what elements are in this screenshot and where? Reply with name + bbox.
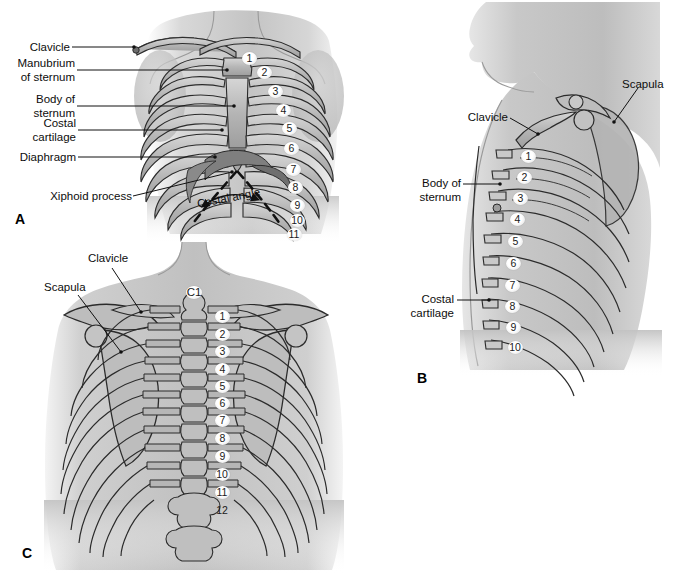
panel-c-vertebra-number-6: 6	[215, 397, 229, 410]
panel-c-vertebra-number-1: 1	[215, 310, 229, 323]
panel-c-vertebra-number-3: 3	[215, 345, 229, 358]
panel-a-rib-number-11: 11	[285, 228, 303, 241]
panel-c-vertebra-number-9: 9	[215, 450, 229, 463]
panel-a-rib-number-10: 10	[288, 214, 306, 227]
label-b-clavicle: Clavicle	[438, 111, 508, 125]
label-a-xiphoid-process: Xiphoid process	[40, 190, 132, 204]
label-a-clavicle: Clavicle	[0, 41, 70, 55]
panel-a-rib-number-6: 6	[284, 142, 298, 155]
panel-c-vertebra-number-5: 5	[215, 380, 229, 393]
panel-c-vertebra-number-12: 12	[213, 504, 231, 517]
panel-b-rib-number-9: 9	[506, 321, 520, 334]
panel-a-rib-number-4: 4	[276, 104, 290, 117]
panel-letter-c: C	[22, 545, 32, 561]
panel-letter-a: A	[15, 211, 25, 227]
label-b-costal-cartilage: Costal cartilage	[378, 293, 454, 320]
panel-c-vertebra-number-2: 2	[215, 328, 229, 341]
panel-c-vertebra-number-10: 10	[213, 468, 231, 481]
panel-b-rib-number-10: 10	[506, 341, 524, 354]
label-c-c1-vertebra: C1	[184, 286, 204, 299]
panel-a-rib-number-2: 2	[257, 66, 271, 79]
panel-c-vertebra-number-7: 7	[215, 414, 229, 427]
panel-b-rib-number-1: 1	[521, 150, 535, 163]
panel-b-rib-number-3: 3	[513, 192, 527, 205]
panel-b-rib-number-7: 7	[505, 279, 519, 292]
panel-b-rib-number-4: 4	[510, 213, 524, 226]
panel-b-rib-number-6: 6	[506, 257, 520, 270]
label-c-scapula: Scapula	[44, 281, 86, 295]
panel-a-illustration	[0, 0, 678, 575]
panel-letter-b: B	[417, 370, 427, 386]
panel-b-rib-number-2: 2	[517, 171, 531, 184]
panel-b-rib-number-8: 8	[505, 300, 519, 313]
panel-c-vertebra-number-4: 4	[215, 363, 229, 376]
panel-c-vertebra-number-11: 11	[213, 486, 231, 499]
panel-a-rib-number-8: 8	[288, 181, 302, 194]
label-c-clavicle: Clavicle	[88, 252, 128, 266]
panel-a-costal-cartilage	[223, 60, 237, 67]
label-a-body-of-sternum: Body of sternum	[0, 93, 75, 120]
panel-a-rib-number-9: 9	[290, 199, 304, 212]
panel-a-rib-number-3: 3	[268, 85, 282, 98]
panel-a-rib-number-1: 1	[242, 52, 256, 65]
label-a-costal-cartilage: Costal cartilage	[0, 117, 76, 144]
panel-a-rib-number-7: 7	[286, 163, 300, 176]
label-a-manubrium-of-sternum: Manubrium of sternum	[0, 57, 75, 84]
label-b-body-of-sternum: Body of sternum	[385, 177, 461, 204]
figure-canvas: Clavicle Manubrium of sternum Body of st…	[0, 0, 678, 575]
label-a-diaphragm: Diaphragm	[0, 151, 76, 165]
label-b-scapula: Scapula	[622, 78, 664, 92]
panel-b-rib-number-5: 5	[508, 235, 522, 248]
panel-a-rib-number-5: 5	[282, 122, 296, 135]
panel-c-vertebra-number-8: 8	[215, 432, 229, 445]
